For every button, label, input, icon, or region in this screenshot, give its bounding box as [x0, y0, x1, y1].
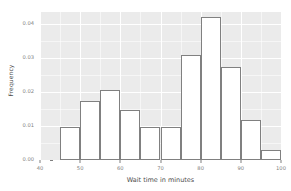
- histogram-chart: Frequency 0.000.010.020.030.04 405060708…: [0, 0, 291, 191]
- x-tick-label: 70: [157, 165, 164, 171]
- x-tick-mark: [200, 160, 201, 163]
- x-tick-mark: [120, 160, 121, 163]
- x-axis-ticks: 405060708090100: [0, 0, 291, 191]
- x-tick-label: 60: [117, 165, 124, 171]
- x-tick-label: 50: [77, 165, 84, 171]
- x-tick-label: 90: [238, 165, 245, 171]
- x-axis-title-label: Wait time in minutes: [127, 176, 194, 184]
- x-tick-mark: [281, 160, 282, 163]
- x-tick-label: 40: [37, 165, 44, 171]
- x-tick-label: 80: [197, 165, 204, 171]
- x-tick-mark: [160, 160, 161, 163]
- x-tick-mark: [80, 160, 81, 163]
- x-axis-title: Wait time in minutes: [40, 176, 281, 184]
- x-tick-mark: [240, 160, 241, 163]
- x-tick-label: 100: [276, 165, 286, 171]
- x-tick-mark: [40, 160, 41, 163]
